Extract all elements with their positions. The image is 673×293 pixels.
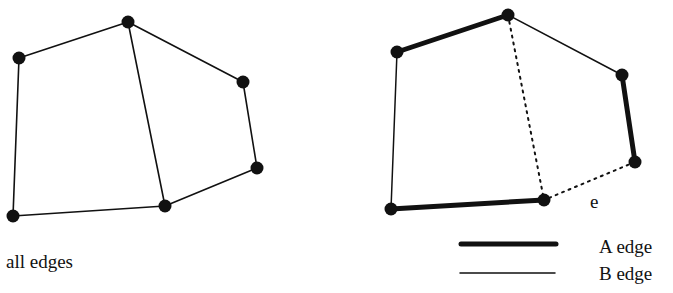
- a-edge: [622, 75, 635, 162]
- left-graph-node: [237, 76, 250, 89]
- right-graph-node: [629, 156, 642, 169]
- left-graph-node: [251, 162, 264, 175]
- left-graph-edge: [128, 22, 165, 206]
- left-graph-edge: [165, 168, 257, 206]
- dotted-edge: [508, 15, 544, 200]
- left-graph-edge: [13, 206, 165, 216]
- left-graph-edge: [19, 22, 128, 58]
- legend-a-label: A edge: [599, 237, 652, 256]
- left-graph-edge: [128, 22, 243, 82]
- right-graph-node: [616, 69, 629, 82]
- diagram-canvas: all edges e A edge B edge: [0, 0, 673, 293]
- a-edge: [391, 200, 544, 209]
- left-graph-node: [7, 210, 20, 223]
- left-graph-node: [122, 16, 135, 29]
- right-graph-node: [502, 9, 515, 22]
- b-edge: [391, 52, 397, 209]
- legend-b-label: B edge: [599, 264, 652, 283]
- b-edge: [508, 15, 622, 75]
- a-edge: [397, 15, 508, 52]
- left-graph-caption: all edges: [6, 252, 73, 271]
- left-graph-edge: [243, 82, 257, 168]
- graph-drawing: [0, 0, 673, 293]
- edge-e-label: e: [590, 192, 598, 211]
- left-graph-node: [13, 52, 26, 65]
- left-graph-edge: [13, 58, 19, 216]
- right-graph-node: [391, 46, 404, 59]
- right-graph-node: [538, 194, 551, 207]
- left-graph-node: [159, 200, 172, 213]
- right-graph-node: [385, 203, 398, 216]
